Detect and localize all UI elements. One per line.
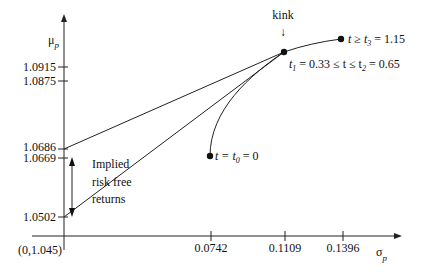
origin-label: (0,1.045) bbox=[18, 243, 62, 257]
y-axis-label: μp bbox=[48, 33, 59, 50]
y-axis-arrow-icon bbox=[61, 14, 67, 22]
efficient-frontier-diagram: μp σp (0,1.045) 1.0915 1.0875 1.0686 1.0… bbox=[0, 0, 425, 272]
y-tick-label: 1.0669 bbox=[23, 151, 56, 165]
x-tick-label: 0.1396 bbox=[327, 241, 360, 255]
implied-label-line1: Implied bbox=[92, 157, 129, 171]
t0-label: t = t0 = 0 bbox=[215, 149, 259, 165]
point-t3 bbox=[338, 36, 344, 42]
x-tick-label: 0.0742 bbox=[195, 241, 228, 255]
x-axis-label: σp bbox=[376, 245, 387, 263]
y-ticks: 1.0915 1.0875 1.0686 1.0669 1.0502 bbox=[23, 60, 68, 224]
frontier-curve-upper bbox=[284, 39, 341, 52]
y-tick-label: 1.0915 bbox=[23, 60, 56, 74]
x-axis-arrow-icon bbox=[394, 233, 402, 239]
kink-label: kink bbox=[272, 8, 293, 22]
point-t0 bbox=[207, 153, 213, 159]
implied-label-line3: returns bbox=[92, 192, 126, 206]
kink-arrow-icon: ↓ bbox=[280, 25, 286, 39]
point-kink bbox=[281, 49, 287, 55]
y-tick-label: 1.0875 bbox=[23, 74, 56, 88]
frontier-curve-lower bbox=[210, 52, 284, 156]
implied-range-arrow-icon bbox=[69, 157, 75, 217]
x-tick-label: 0.1109 bbox=[269, 241, 302, 255]
x-ticks: 0.0742 0.1109 0.1396 bbox=[195, 231, 360, 255]
t1-t2-label: t1 = 0.33 ≤ t ≤ t2 = 0.65 bbox=[289, 57, 400, 73]
t3-label: t ≥ t3 = 1.15 bbox=[348, 32, 405, 48]
y-tick-label: 1.0502 bbox=[23, 210, 56, 224]
implied-label-line2: risk free bbox=[92, 175, 132, 189]
